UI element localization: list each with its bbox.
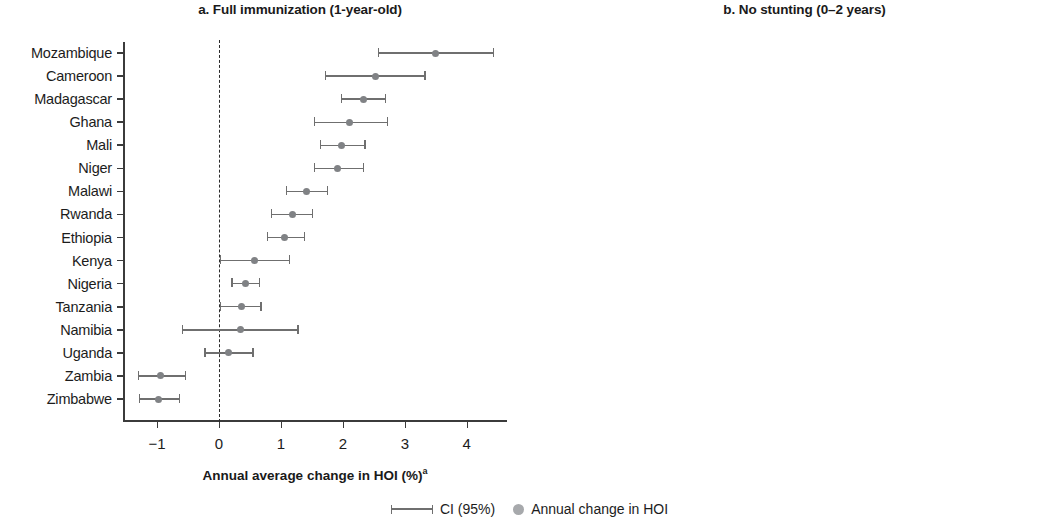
panel-a-x-tick [405,422,406,428]
ci-cap-right-icon [493,48,494,57]
panel-a-point-marker-ethiopia [281,234,288,241]
panel-a: a. Full immunization (1-year-old) Annual… [0,0,530,500]
panel-a-x-tick-label: 1 [277,435,285,452]
legend-item-ci: CI (95%) [391,501,495,517]
ci-cap-right-icon [252,348,253,357]
panel-a-x-tick-label: 2 [339,435,347,452]
panel-a-point-marker-mali [338,142,345,149]
ci-cap-right-icon [312,209,313,218]
panel-a-y-tick [117,191,123,193]
panel-a-title: a. Full immunization (1-year-old) [0,2,530,17]
panel-a-y-tick-label-zimbabwe: Zimbabwe [47,390,112,408]
panel-a-point-marker-cameroon [372,73,379,80]
panel-a-x-tick-label: 3 [401,435,409,452]
panel-a-y-tick [117,352,123,354]
panel-a-y-tick [117,375,123,377]
ci-cap-left-icon [325,71,326,80]
ci-cap-right-icon [297,325,298,334]
panel-b-title: b. No stunting (0–2 years) [530,2,1059,17]
panel-a-x-tick-label: 0 [215,435,223,452]
ci-cap-left-icon [320,140,321,149]
panel-a-point-marker-niger [334,165,341,172]
panel-a-y-tick [117,306,123,308]
ci-cap-left-icon [182,325,183,334]
ci-cap-left-icon [231,278,232,287]
panel-a-y-tick-label-niger: Niger [78,159,112,177]
panel-a-y-tick-label-madagascar: Madagascar [34,90,112,108]
panel-a-x-tick [281,422,282,428]
panel-a-point-marker-zimbabwe [155,396,162,403]
panel-a-x-axis-title-text: Annual average change in HOI (%) [203,467,423,482]
panel-a-y-tick [117,329,123,331]
legend-item-point: Annual change in HOI [513,501,668,517]
ci-cap-right-icon [327,186,328,195]
panel-a-x-tick-label: −1 [149,435,166,452]
panel-a-y-tick [117,237,123,239]
panel-a-x-tick [157,422,158,428]
panel-a-y-tick-label-nigeria: Nigeria [67,275,112,293]
panel-a-zero-reference-line [219,40,220,422]
ci-cap-left-icon [271,209,272,218]
panel-a-y-tick [117,52,123,54]
panel-a-y-tick-label-cameroon: Cameroon [46,67,112,85]
panel-a-y-tick [117,121,123,123]
ci-cap-left-icon [378,48,379,57]
panel-a-x-tick [343,422,344,428]
panel-a-y-tick-label-rwanda: Rwanda [60,205,112,223]
ci-cap-right-icon [364,140,365,149]
panel-a-point-marker-mozambique [432,50,439,57]
panel-a-point-marker-madagascar [360,96,367,103]
panel-a-y-tick-label-tanzania: Tanzania [56,298,112,316]
panel-b: b. No stunting (0–2 years) Annual averag… [530,0,1059,500]
panel-a-point-marker-kenya [251,257,258,264]
panel-a-y-tick-label-uganda: Uganda [62,344,112,362]
ci-cap-right-icon [304,232,305,241]
panel-a-point-marker-ghana [346,119,353,126]
panel-a-point-marker-nigeria [242,280,249,287]
ci-cap-left-icon [341,94,342,103]
panel-a-y-tick [117,168,123,170]
ci-cap-right-icon [385,94,386,103]
panel-a-y-tick [117,75,123,77]
panel-a-y-tick [117,214,123,216]
panel-a-y-tick [117,98,123,100]
panel-a-y-tick-label-mozambique: Mozambique [31,44,112,62]
chart-legend: CI (95%) Annual change in HOI [0,501,1059,517]
panel-a-x-tick [219,422,220,428]
panel-a-point-marker-zambia [157,372,164,379]
circle-marker-icon [513,504,524,515]
legend-label-point: Annual change in HOI [531,501,668,517]
legend-label-ci: CI (95%) [440,501,495,517]
panel-a-y-tick [117,144,123,146]
panel-a-point-marker-tanzania [238,303,245,310]
panel-a-y-tick-label-zambia: Zambia [65,367,112,385]
ci-cap-left-icon [314,117,315,126]
panel-a-y-axis-line [123,42,125,422]
ci-cap-right-icon [259,278,260,287]
panel-a-y-tick-label-malawi: Malawi [68,182,112,200]
ci-cap-right-icon [387,117,388,126]
ci-cap-right-icon [289,255,290,264]
panel-a-y-tick [117,283,123,285]
ci-cap-left-icon [204,348,205,357]
panel-a-x-tick [467,422,468,428]
ci-cap-left-icon [267,232,268,241]
ci-cap-right-icon [179,394,180,403]
panel-a-y-tick-label-mali: Mali [86,136,112,154]
panel-a-point-marker-malawi [303,188,310,195]
panel-a-x-tick-label: 4 [463,435,471,452]
panel-a-x-axis-line [123,420,507,422]
ci-cap-right-icon [363,163,364,172]
panel-a-y-tick [117,260,123,262]
ci-cap-left-icon [139,394,140,403]
panel-a-plot-area: Annual average change in HOI (%)a −10123… [123,42,507,422]
ci-cap-left-icon [220,255,221,264]
ci-cap-right-icon [260,302,261,311]
ci-cap-right-icon [424,71,425,80]
ci-cap-right-icon [185,371,186,380]
ci-cap-left-icon [220,302,221,311]
ci-cap-left-icon [314,163,315,172]
error-bar-icon [391,504,433,514]
ci-cap-left-icon [286,186,287,195]
ci-cap-left-icon [138,371,139,380]
